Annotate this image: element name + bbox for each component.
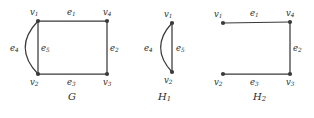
edge-label-H2-e3: e3: [250, 78, 259, 88]
vertex-label-H1-v1: v1: [164, 10, 172, 20]
vertex-label-H2-v2: v2: [214, 78, 222, 88]
subscript: 4: [15, 47, 19, 53]
subscript: 2: [115, 47, 119, 53]
subscript: 5: [181, 47, 185, 53]
edges-layer: [25, 21, 290, 74]
subscript: 4: [291, 12, 295, 18]
caption-G: G: [68, 92, 76, 102]
edge-label-G-e4: e4: [10, 44, 19, 54]
subscript: 2: [219, 81, 223, 87]
vertex-H1-v2: [170, 70, 174, 74]
graph-figure: e1e2e3e4e5v1v2v3v4Ge4e5v1v2H1e1e2e3v1v2v…: [0, 0, 314, 118]
vertex-label-H1-v2: v2: [164, 76, 172, 86]
subscript: 1: [255, 12, 259, 18]
vertex-H1-v1: [170, 21, 174, 25]
vertex-G-v3: [105, 72, 109, 76]
graph-drawing-canvas: [0, 0, 314, 118]
subscript: 2: [35, 81, 39, 87]
edge-label-H1-e4: e4: [144, 44, 153, 54]
vertex-H2-v1: [221, 21, 225, 25]
subscript: 1: [219, 13, 223, 19]
subscript: 3: [291, 81, 295, 87]
subscript: 3: [255, 81, 259, 87]
vertex-label-G-v1: v1: [30, 8, 38, 18]
edge-label-G-e1: e1: [67, 8, 76, 18]
subscript: 2: [298, 47, 302, 53]
vertex-G-v1: [36, 19, 40, 23]
subscript: 3: [108, 81, 112, 87]
caption-H1: H1: [158, 92, 171, 103]
subscript: 5: [46, 47, 50, 53]
subscript: 1: [35, 11, 39, 17]
vertex-H2-v3: [288, 72, 292, 76]
vertex-G-v4: [105, 19, 109, 23]
subscript: 1: [72, 11, 76, 17]
vertices-layer: [36, 19, 292, 76]
subscript: 2: [169, 79, 173, 85]
edge-label-G-e5: e5: [41, 44, 50, 54]
vertex-H2-v2: [221, 72, 225, 76]
vertex-label-H2-v3: v3: [286, 78, 294, 88]
edge-H2-e1: [223, 22, 290, 23]
edge-label-H2-e2: e2: [293, 44, 302, 54]
vertex-label-G-v4: v4: [103, 8, 111, 18]
edge-label-G-e3: e3: [67, 78, 76, 88]
subscript: 3: [72, 81, 76, 87]
vertex-label-G-v2: v2: [30, 78, 38, 88]
vertex-H2-v4: [288, 20, 292, 24]
subscript: 4: [108, 11, 112, 17]
edge-label-H1-e5: e5: [176, 44, 185, 54]
vertex-G-v2: [36, 72, 40, 76]
edge-H1-e4: [161, 23, 172, 72]
subscript: 2: [262, 95, 266, 103]
edge-label-G-e2: e2: [110, 44, 119, 54]
edge-G-e4: [25, 21, 38, 74]
subscript: 1: [167, 95, 171, 103]
vertex-label-H2-v4: v4: [286, 9, 294, 19]
vertex-label-G-v3: v3: [103, 78, 111, 88]
subscript: 1: [169, 13, 173, 19]
subscript: 4: [149, 47, 153, 53]
edge-label-H2-e1: e1: [250, 9, 259, 19]
caption-H2: H2: [253, 92, 266, 103]
vertex-label-H2-v1: v1: [214, 10, 222, 20]
